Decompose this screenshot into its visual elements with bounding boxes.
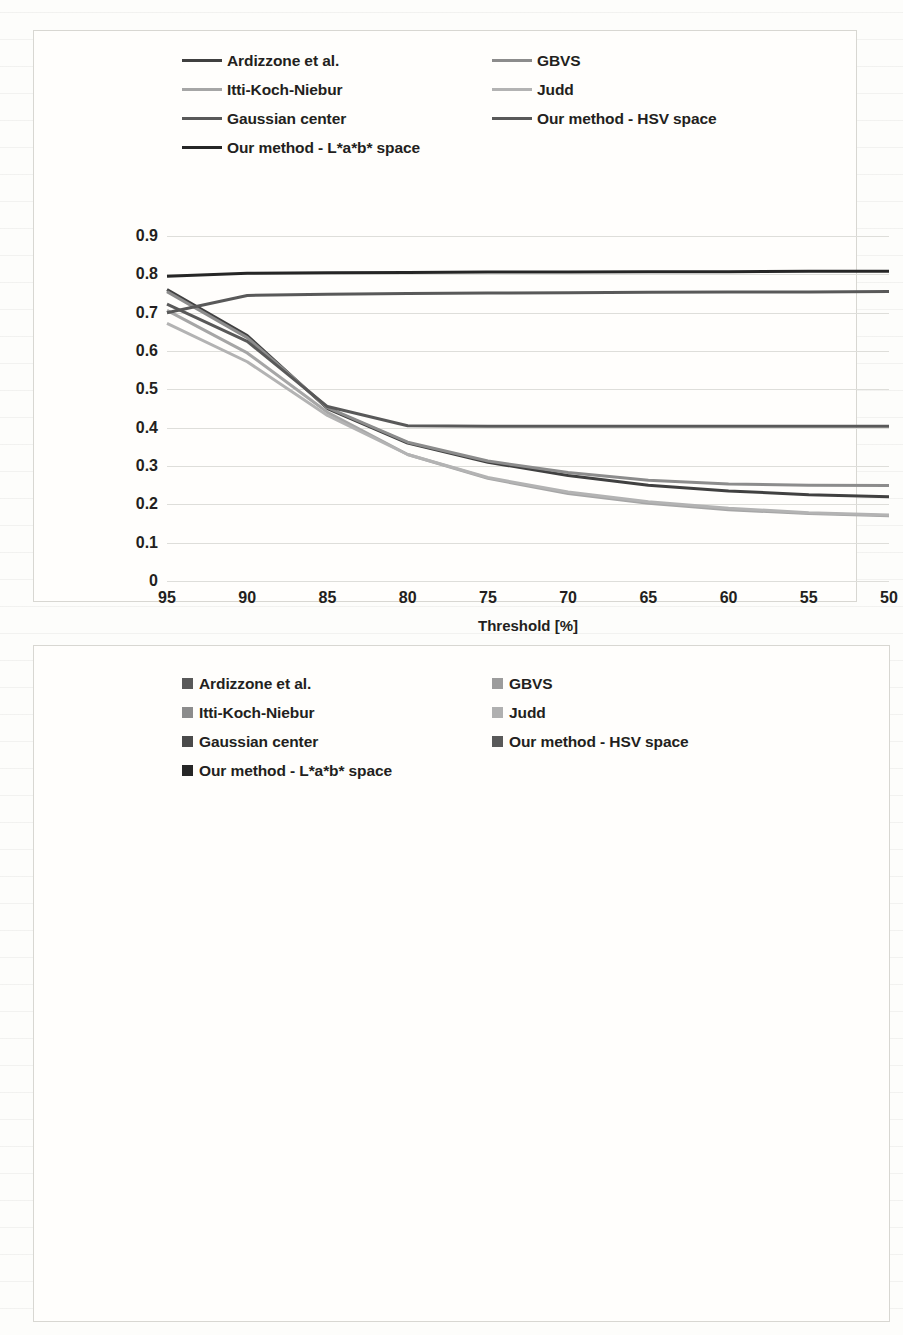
legend-item-itti-koch-niebur: Itti-Koch-Niebur: [182, 81, 492, 99]
line-series-our-method-l-a-b-space: [167, 271, 889, 276]
legend-label: GBVS: [537, 52, 581, 70]
legend-swatch-icon: [492, 678, 503, 689]
legend-swatch-icon: [492, 59, 532, 62]
legend-label: Ardizzone et al.: [227, 52, 339, 70]
legend-label: Itti-Koch-Niebur: [227, 81, 343, 99]
x-tick-label: 60: [720, 589, 738, 607]
legend-item-judd: Judd: [492, 81, 574, 99]
y-tick-label: 0.8: [136, 265, 158, 283]
line-chart-plot-area: 00.10.20.30.40.50.60.70.80.9 95908580757…: [167, 236, 889, 581]
gridline: [167, 581, 889, 582]
legend-label: Our method - HSV space: [537, 110, 717, 128]
line-series-our-method-hsv-space: [167, 292, 889, 313]
legend-swatch-icon: [492, 88, 532, 91]
legend-swatch-icon: [182, 59, 222, 62]
legend-label: Itti-Koch-Niebur: [199, 704, 315, 722]
y-tick-label: 0.7: [136, 304, 158, 322]
y-tick-label: 0.3: [136, 457, 158, 475]
x-tick-label: 95: [158, 589, 176, 607]
legend-label: Judd: [537, 81, 574, 99]
line-series-gbvs: [167, 292, 889, 486]
legend-item-our-method-hsv: Our method - HSV space: [492, 110, 717, 128]
legend-label: Our method - L*a*b* space: [199, 762, 392, 780]
y-tick-label: 0.4: [136, 419, 158, 437]
y-tick-label: 0.9: [136, 227, 158, 245]
line-chart-series: [167, 236, 889, 581]
line-chart-legend: Ardizzone et al. GBVS Itti-Koch-Niebur J…: [182, 46, 842, 162]
x-tick-label: 65: [639, 589, 657, 607]
x-tick-label: 70: [559, 589, 577, 607]
legend-swatch-icon: [492, 736, 503, 747]
legend-item-judd: Judd: [492, 704, 546, 722]
x-tick-label: 80: [399, 589, 417, 607]
legend-item-our-method-lab: Our method - L*a*b* space: [182, 139, 420, 157]
legend-swatch-icon: [182, 88, 222, 91]
y-tick-label: 0: [149, 572, 158, 590]
legend-item-itti-koch-niebur: Itti-Koch-Niebur: [182, 704, 492, 722]
x-tick-label: 75: [479, 589, 497, 607]
legend-label: Gaussian center: [227, 110, 346, 128]
legend-swatch-icon: [182, 736, 193, 747]
legend-swatch-icon: [182, 678, 193, 689]
x-tick-label: 55: [800, 589, 818, 607]
y-tick-label: 0.2: [136, 495, 158, 513]
legend-label: Ardizzone et al.: [199, 675, 311, 693]
x-tick-label: 90: [238, 589, 256, 607]
bar-chart-legend: Ardizzone et al. GBVS Itti-Koch-Niebur J…: [182, 669, 842, 785]
legend-item-gbvs: GBVS: [492, 675, 553, 693]
legend-item-ardizzone: Ardizzone et al.: [182, 52, 492, 70]
legend-item-gbvs: GBVS: [492, 52, 581, 70]
legend-item-gaussian-center: Gaussian center: [182, 733, 492, 751]
line-chart-x-axis-title: Threshold [%]: [167, 617, 889, 634]
line-chart-panel: Ardizzone et al. GBVS Itti-Koch-Niebur J…: [33, 30, 857, 602]
legend-item-gaussian-center: Gaussian center: [182, 110, 492, 128]
x-tick-label: 50: [880, 589, 898, 607]
y-tick-label: 0.5: [136, 380, 158, 398]
y-tick-label: 0.1: [136, 534, 158, 552]
x-tick-label: 85: [319, 589, 337, 607]
legend-swatch-icon: [182, 117, 222, 120]
legend-label: Judd: [509, 704, 546, 722]
bar-chart-panel: Ardizzone et al. GBVS Itti-Koch-Niebur J…: [33, 645, 890, 1322]
legend-swatch-icon: [182, 765, 193, 776]
legend-label: Gaussian center: [199, 733, 318, 751]
legend-item-our-method-hsv: Our method - HSV space: [492, 733, 689, 751]
legend-label: GBVS: [509, 675, 553, 693]
legend-swatch-icon: [182, 146, 222, 149]
legend-item-our-method-lab: Our method - L*a*b* space: [182, 762, 392, 780]
y-tick-label: 0.6: [136, 342, 158, 360]
legend-swatch-icon: [182, 707, 193, 718]
line-series-gaussian-center: [167, 304, 889, 426]
legend-label: Our method - L*a*b* space: [227, 139, 420, 157]
legend-swatch-icon: [492, 707, 503, 718]
legend-item-ardizzone: Ardizzone et al.: [182, 675, 492, 693]
legend-swatch-icon: [492, 117, 532, 120]
legend-label: Our method - HSV space: [509, 733, 689, 751]
